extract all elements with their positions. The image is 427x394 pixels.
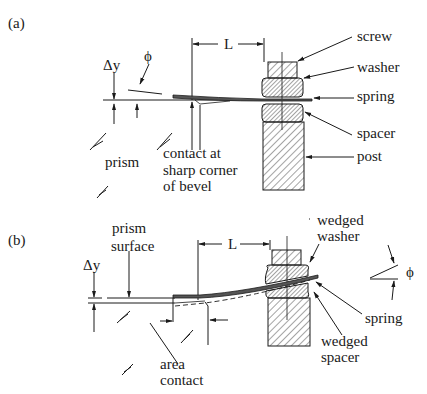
washer-label: washer [357, 59, 399, 75]
area-contact-label-line2: contact [160, 372, 204, 388]
wedged-washer-label-line1: wedged [317, 212, 364, 228]
contact-label-line3: of bevel [163, 178, 212, 194]
wedged-spacer-label-line2: spacer [321, 349, 359, 365]
screw-head-b [272, 250, 301, 265]
wedged-washer-label-line2: washer [317, 228, 359, 244]
callout-leaders-a [298, 37, 354, 157]
post-b [268, 298, 310, 346]
post-a [263, 122, 304, 190]
prism-label-a: prism [105, 154, 140, 170]
post-label: post [357, 148, 383, 164]
area-contact-label-line1: area [160, 356, 185, 372]
delta-y-label-b: Δy [83, 257, 101, 273]
spring-label-b: spring [365, 310, 403, 326]
washer-a [262, 78, 303, 97]
prism-surface-label-line1: prism [112, 220, 147, 236]
spring-label-a: spring [357, 88, 395, 104]
post-assembly-b [265, 236, 310, 346]
spacer-a [262, 104, 303, 122]
panel-b-label: (b) [8, 232, 26, 249]
wedged-spacer-label-line1: wedged [321, 333, 368, 349]
spacer-label: spacer [357, 125, 395, 141]
screw-head-a [268, 62, 297, 78]
length-label-b: L [228, 236, 237, 252]
panel-a-label: (a) [8, 15, 25, 32]
contact-label-line2: sharp corner [163, 162, 238, 178]
panel-a: (a) L Δy ϕ [8, 15, 399, 198]
post-assembly-a [262, 52, 304, 190]
prism-surface-label-line2: surface [111, 238, 155, 254]
phi-label-a: ϕ [144, 48, 152, 64]
screw-label: screw [357, 28, 392, 44]
length-label-a: L [224, 36, 233, 52]
panel-b: (b) prism surface Δy L [8, 212, 414, 388]
delta-y-arrows-a [114, 64, 200, 150]
spring-mount-diagram: (a) L Δy ϕ [0, 0, 427, 394]
delta-y-label-a: Δy [103, 57, 121, 73]
phi-label-b: ϕ [406, 264, 414, 280]
contact-label-line1: contact at [163, 145, 222, 161]
